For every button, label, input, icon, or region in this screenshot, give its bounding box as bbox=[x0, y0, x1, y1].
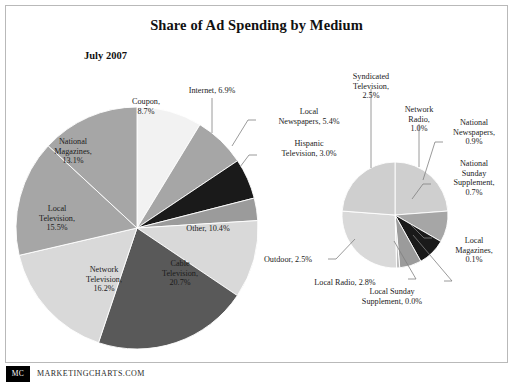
main-pie-label-other: Other, 10.4% bbox=[186, 224, 230, 233]
detail-pie-slice-syndicated-television bbox=[395, 162, 448, 215]
main-pie-label-internet: Internet, 6.9% bbox=[189, 86, 236, 95]
detail-pie-label-national-sunday-supplement: NationalSundaySupplement,0.7% bbox=[453, 159, 494, 197]
footer: MC MARKETINGCHARTS.COM bbox=[6, 364, 513, 383]
footer-url: MARKETINGCHARTS.COM bbox=[37, 369, 145, 378]
chart-page: Share of Ad Spending by Medium July 2007… bbox=[0, 0, 513, 383]
detail-pie-slice-local-radio bbox=[342, 211, 397, 268]
detail-pie-label-national-newspapers: NationalNewspapers,0.9% bbox=[453, 118, 495, 146]
detail-pie bbox=[342, 162, 448, 268]
detail-pie-label-network-radio: NetworkRadio,1.0% bbox=[405, 105, 435, 133]
detail-pie-label-local-radio: Local Radio, 2.8% bbox=[314, 278, 376, 287]
main-pie-label-hispanic-television: HispanicTelevision, 3.0% bbox=[281, 139, 336, 158]
local-newspapers-leader bbox=[232, 120, 256, 146]
detail-pie-slice-outdoor bbox=[342, 162, 395, 215]
hispanic-television-leader bbox=[240, 155, 257, 167]
detail-pie-label-syndicated-television: SyndicatedTelevision,2.5% bbox=[353, 72, 389, 100]
detail-pie-label-outdoor: Outdoor, 2.5% bbox=[264, 255, 312, 264]
detail-pie-label-local-magazines: LocalMagazines,0.1% bbox=[455, 236, 493, 264]
detail-pie-label-local-sunday-supplement: Local SundaySupplement, 0.0% bbox=[362, 287, 422, 306]
main-pie-label-local-newspapers: LocalNewspapers, 5.4% bbox=[278, 107, 339, 126]
pie-chart-svg: Coupon,8.7%NationalMagazines,13.1%LocalT… bbox=[0, 0, 513, 383]
marketingcharts-logo: MC bbox=[6, 366, 30, 382]
